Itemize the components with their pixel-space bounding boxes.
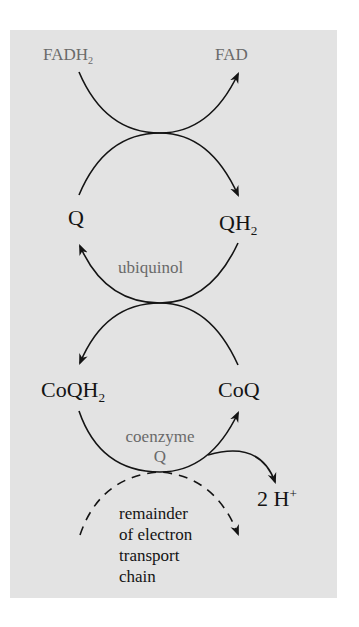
arrow-to-protons [208, 451, 275, 482]
label-coenzyme-q: coenzyme Q [117, 428, 203, 465]
label-q: Q [68, 207, 84, 229]
arrow-q-to-qh2 [79, 133, 238, 195]
label-qh2: QH2 [219, 212, 257, 234]
arrow-fadh2-to-fad [79, 72, 238, 133]
label-fadh2: FADH2 [43, 46, 93, 63]
arrow-coq-to-coqh2 [80, 303, 238, 365]
label-remainder-etc: remainder of electron transport chain [119, 503, 192, 587]
label-protons: 2 H+ [257, 488, 297, 510]
label-coq: CoQ [218, 379, 260, 401]
label-fad: FAD [215, 46, 248, 63]
label-coqh2: CoQH2 [41, 379, 105, 401]
label-ubiquinol: ubiquinol [118, 259, 183, 276]
